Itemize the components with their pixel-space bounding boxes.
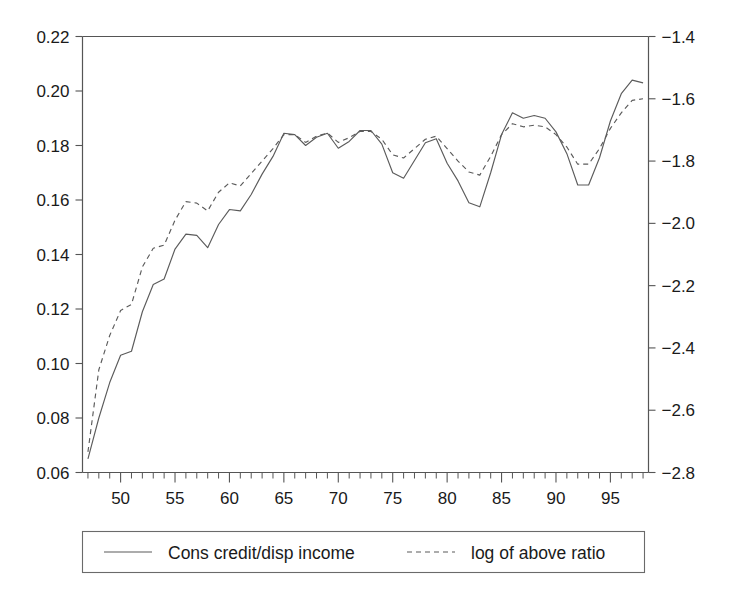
y-axis-tick-label: 0.18 <box>36 137 69 156</box>
x-axis-tick-label: 70 <box>329 489 348 508</box>
legend-label-series-2: log of above ratio <box>471 543 605 563</box>
y-axis-tick-labels: 0.060.080.100.120.140.160.180.200.22 <box>36 28 69 483</box>
y2-axis-tick-label: −1.4 <box>662 28 696 47</box>
y-axis-tick-label: 0.16 <box>36 191 69 210</box>
y2-axis-tick-label: −2.4 <box>662 339 696 358</box>
x-axis-tick-label: 65 <box>274 489 293 508</box>
x-axis-tick-label: 95 <box>601 489 620 508</box>
y-axis-tick-label: 0.08 <box>36 409 69 428</box>
x-axis-tick-label: 75 <box>383 489 402 508</box>
x-axis-tick-label: 80 <box>438 489 457 508</box>
chart-legend: Cons credit/disp income log of above rat… <box>83 532 645 573</box>
y2-axis-tick-label: −1.8 <box>662 152 696 171</box>
y-axis-tick-label: 0.06 <box>36 464 69 483</box>
line-chart: 0.060.080.100.120.140.160.180.200.22 −2.… <box>0 0 735 597</box>
y2-axis-tick-label: −2.0 <box>662 214 696 233</box>
y-axis-tick-label: 0.10 <box>36 355 69 374</box>
y-axis-tick-label: 0.20 <box>36 82 69 101</box>
x-axis-tick-label: 50 <box>111 489 130 508</box>
x-axis-tick-label: 85 <box>492 489 511 508</box>
y-axis-tick-label: 0.14 <box>36 246 69 265</box>
y2-axis-tick-label: −2.2 <box>662 277 696 296</box>
x-axis-tick-label: 90 <box>547 489 566 508</box>
legend-label-series-1: Cons credit/disp income <box>168 543 355 563</box>
chart-figure: 0.060.080.100.120.140.160.180.200.22 −2.… <box>0 0 735 597</box>
x-axis-tick-label: 55 <box>166 489 185 508</box>
y2-axis-tick-label: −1.6 <box>662 90 696 109</box>
y-axis-tick-label: 0.22 <box>36 28 69 47</box>
y2-axis-tick-label: −2.8 <box>662 464 696 483</box>
y-axis-tick-label: 0.12 <box>36 300 69 319</box>
y2-axis-tick-label: −2.6 <box>662 401 696 420</box>
x-axis-tick-label: 60 <box>220 489 239 508</box>
